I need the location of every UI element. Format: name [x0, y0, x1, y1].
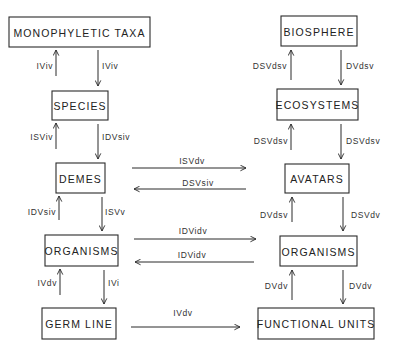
edge-germ-line-to-organisms-left: IVdv: [38, 269, 60, 295]
edge-label: DVdsv: [260, 210, 288, 220]
edge-species-to-demes: IDVsiv: [98, 124, 130, 159]
node-label: BIOSPHERE: [283, 26, 354, 38]
edge-label: ISVdv: [179, 156, 205, 166]
node-label: DEMES: [59, 173, 102, 185]
edge-label: ISViv: [30, 132, 53, 142]
node-germ-line: GERM LINE: [42, 308, 116, 339]
edge-label: IDVidv: [178, 250, 207, 260]
edge-organisms-right-to-organisms-left: IDVidv: [135, 250, 254, 262]
edge-biosphere-to-ecosystems: DVdsv: [341, 50, 374, 85]
edge-ecosystems-to-avatars: DSVdsv: [341, 124, 380, 159]
node-demes: DEMES: [56, 163, 105, 193]
node-label: GERM LINE: [45, 318, 113, 330]
edge-monophyletic-taxa-to-species: IViv: [98, 50, 119, 86]
hierarchy-diagram: IVivIVivISVivIDVsivIDVsivISVvIVdvIViDSVd…: [0, 0, 397, 356]
edge-organisms-left-to-germ-line: IVi: [104, 270, 120, 304]
node-label: ECOSYSTEMS: [276, 99, 360, 111]
edge-organisms-right-to-avatars: DVdsv: [260, 197, 292, 222]
node-organisms-right: ORGANISMS: [280, 236, 357, 266]
node-label: ORGANISMS: [281, 246, 355, 258]
edge-label: IVi: [108, 278, 120, 288]
node-label: SPECIES: [53, 100, 106, 112]
node-label: ORGANISMS: [44, 245, 118, 257]
edge-label: DVdv: [349, 281, 372, 291]
node-label: FUNCTIONAL UNITS: [257, 318, 376, 330]
edge-demes-to-species: ISViv: [30, 123, 56, 149]
node-organisms-left: ORGANISMS: [44, 235, 118, 266]
edge-label: DSVsiv: [182, 178, 214, 188]
edge-ecosystems-to-biosphere: DSVdsv: [253, 50, 291, 80]
node-species: SPECIES: [52, 91, 108, 120]
edge-label: IDVsiv: [28, 207, 56, 217]
edge-avatars-to-ecosystems: DSVdsv: [254, 124, 291, 150]
edge-organisms-left-to-demes: IDVsiv: [28, 196, 59, 220]
edge-organisms-left-to-organisms-right: IDVidv: [134, 226, 256, 239]
edge-label: IDVidv: [179, 226, 208, 236]
edge-organisms-right-to-functional-units: DVdv: [343, 270, 372, 304]
node-biosphere: BIOSPHERE: [281, 16, 357, 46]
edge-label: DVdv: [265, 281, 288, 291]
edge-label: IViv: [102, 61, 119, 71]
edge-label: IVdv: [173, 308, 193, 318]
edge-demes-to-organisms-left: ISVv: [102, 197, 126, 231]
node-monophyletic-taxa: MONOPHYLETIC TAXA: [9, 17, 150, 47]
node-avatars: AVATARS: [285, 164, 349, 193]
edge-label: DSVdv: [351, 210, 381, 220]
edge-avatars-to-demes: DSVsiv: [134, 178, 246, 189]
edge-label: DSVdsv: [254, 136, 288, 146]
edge-demes-to-avatars: ISVdv: [132, 156, 246, 168]
edge-avatars-to-organisms-right: DSVdv: [343, 197, 381, 231]
node-functional-units: FUNCTIONAL UNITS: [257, 308, 376, 339]
edge-label: IViv: [37, 61, 54, 71]
edge-species-to-monophyletic-taxa: IViv: [37, 50, 56, 76]
edge-functional-units-to-organisms-right: DVdv: [265, 270, 292, 300]
edge-label: DSVdsv: [253, 61, 287, 71]
edge-label: IDVsiv: [102, 132, 130, 142]
edge-label: DSVdsv: [346, 136, 380, 146]
node-label: MONOPHYLETIC TAXA: [13, 27, 145, 39]
node-ecosystems: ECOSYSTEMS: [276, 89, 360, 120]
edge-label: DVdsv: [346, 61, 374, 71]
edge-label: IVdv: [38, 278, 58, 288]
edge-label: ISVv: [105, 207, 126, 217]
edge-germ-line-to-functional-units: IVdv: [131, 308, 240, 327]
node-label: AVATARS: [290, 173, 344, 185]
